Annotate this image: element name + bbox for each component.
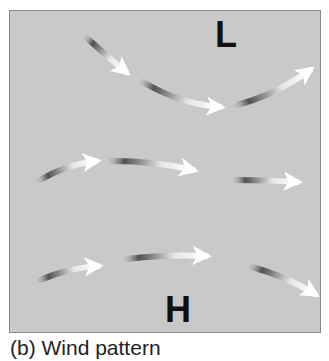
wind-arrow-icon xyxy=(127,255,206,259)
wind-arrows xyxy=(40,38,315,294)
wind-arrow-icon xyxy=(40,266,98,280)
wind-arrow-icon xyxy=(143,82,220,107)
low-pressure-label: L xyxy=(215,17,237,53)
high-pressure-label: H xyxy=(165,292,191,328)
figure-caption: (b) Wind pattern xyxy=(10,336,161,360)
wind-arrow-icon xyxy=(236,180,297,182)
wind-arrow-icon xyxy=(252,267,315,294)
wind-arrow-icon xyxy=(87,38,126,72)
wind-arrow-icon xyxy=(112,161,193,170)
wind-arrow-icon xyxy=(40,161,96,180)
wind-arrow-icon xyxy=(237,70,310,105)
